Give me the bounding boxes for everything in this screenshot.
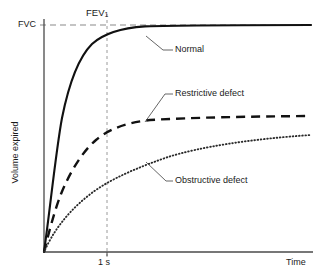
leader-line-obstructive — [146, 162, 173, 181]
annotation-obstructive-defect: Obstructive defect — [175, 176, 248, 185]
fev1-label-text: FEV — [86, 7, 104, 18]
fev1-axis-label: FEV1 — [86, 8, 108, 18]
spirometry-chart-figure: FVC FEV1 Volume expired Time 1 s Normal … — [0, 0, 318, 275]
leader-line-normal — [146, 36, 173, 50]
chart-plot-area — [0, 0, 318, 275]
x-axis-tick-label-1s: 1 s — [98, 258, 110, 267]
x-axis-title: Time — [286, 258, 306, 267]
fvc-axis-label: FVC — [18, 20, 36, 29]
annotation-restrictive-defect: Restrictive defect — [175, 89, 244, 98]
annotation-normal: Normal — [175, 45, 204, 54]
y-axis-title: Volume expired — [11, 113, 20, 193]
fev1-label-subscript: 1 — [104, 11, 108, 18]
